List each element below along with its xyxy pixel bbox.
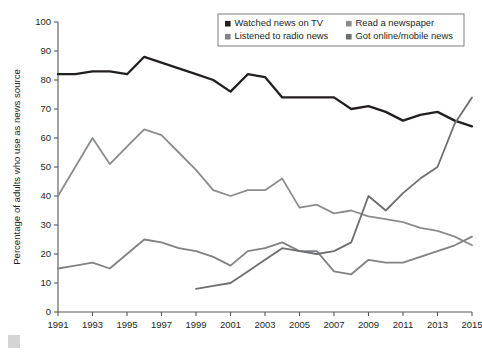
x-tick-label: 2001 xyxy=(220,319,241,330)
y-tick-label: 70 xyxy=(40,103,51,114)
x-tick-label: 2003 xyxy=(254,319,275,330)
y-tick-label: 10 xyxy=(40,277,51,288)
y-tick-label: 100 xyxy=(35,16,51,27)
series-line-watched-news-on-tv xyxy=(58,57,472,127)
y-tick-label: 20 xyxy=(40,248,51,259)
line-chart: 1009080706050403020100199119931995199719… xyxy=(0,0,482,352)
legend-label-2: Listened to radio news xyxy=(235,30,329,41)
legend-swatch-0 xyxy=(225,21,231,27)
x-tick-label: 1995 xyxy=(116,319,137,330)
y-tick-label: 0 xyxy=(46,306,51,317)
series-line-listened-to-radio-news xyxy=(58,237,472,275)
x-tick-label: 2009 xyxy=(358,319,379,330)
legend-label-1: Read a newspaper xyxy=(356,17,435,28)
y-axis-title: Percentage of adults who use as news sou… xyxy=(11,69,22,265)
legend-label-3: Got online/mobile news xyxy=(356,30,454,41)
y-tick-label: 60 xyxy=(40,132,51,143)
legend-swatch-1 xyxy=(346,21,352,27)
x-tick-label: 2015 xyxy=(461,319,482,330)
legend-label-0: Watched news on TV xyxy=(235,17,324,28)
page-corner-mark xyxy=(8,335,20,348)
y-tick-label: 40 xyxy=(40,190,51,201)
x-tick-label: 2007 xyxy=(323,319,344,330)
legend-swatch-3 xyxy=(346,34,352,40)
x-tick-label: 2011 xyxy=(393,319,413,330)
y-tick-label: 50 xyxy=(40,161,51,172)
chart-canvas: 1009080706050403020100199119931995199719… xyxy=(0,0,482,352)
x-tick-label: 1993 xyxy=(82,319,103,330)
x-tick-label: 1997 xyxy=(151,319,172,330)
y-tick-label: 80 xyxy=(40,74,51,85)
legend-swatch-2 xyxy=(225,34,231,40)
x-tick-label: 2005 xyxy=(289,319,310,330)
y-tick-label: 30 xyxy=(40,219,51,230)
y-tick-label: 90 xyxy=(40,45,51,56)
x-tick-label: 1999 xyxy=(185,319,206,330)
axis-lines xyxy=(58,22,472,312)
x-tick-label: 1991 xyxy=(47,319,68,330)
x-tick-label: 2013 xyxy=(427,319,448,330)
